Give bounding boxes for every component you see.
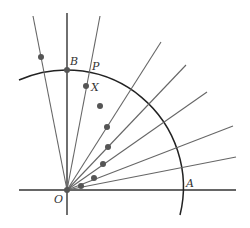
ray-6 <box>67 126 233 190</box>
ray-7 <box>67 157 236 190</box>
circle-arc <box>19 70 183 215</box>
label-x: X <box>90 81 100 94</box>
point-dot <box>97 103 103 109</box>
point-dot <box>78 183 84 189</box>
rays <box>33 16 236 190</box>
point-dot <box>104 124 110 130</box>
label-b: B <box>69 55 78 68</box>
point-x <box>83 83 89 89</box>
ray-1 <box>33 16 67 190</box>
point-dot <box>105 144 111 150</box>
point-dot <box>91 175 97 181</box>
point-origin <box>64 187 70 193</box>
label-a: A <box>185 177 194 190</box>
label-o: O <box>54 193 63 206</box>
ray-5 <box>67 92 207 190</box>
point-dot <box>100 161 106 167</box>
label-p: P <box>91 60 100 73</box>
geometry-diagram: O A B P X <box>0 0 250 228</box>
point-dot <box>38 54 44 60</box>
